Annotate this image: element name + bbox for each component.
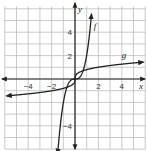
x-tick-label: −2 [47,82,57,91]
curve-label-f: f [94,21,98,31]
y-tick-label: 4 [68,28,73,37]
x-tick-label: 2 [96,82,101,91]
y-tick-label: −4 [63,122,73,131]
x-axis-label: x [138,81,143,91]
x-tick-label: −4 [24,82,34,91]
function-graph: −4−22442−4xyfg [0,0,147,151]
curve-label-g: g [122,50,127,60]
x-tick-label: 4 [120,82,125,91]
axes [2,3,145,149]
y-axis-label: y [77,4,82,14]
y-tick-label: 2 [68,52,73,61]
